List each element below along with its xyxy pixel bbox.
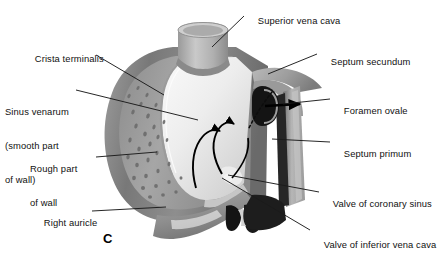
label-foramen-ovale: Foramen ovale	[333, 94, 408, 128]
label-superior-vena-cava: Superior vena cava	[247, 4, 340, 38]
panel-letter: C	[103, 231, 112, 246]
heart-body	[105, 22, 322, 239]
label-septum-secundum: Septum secundum	[320, 45, 411, 79]
label-right-auricle: Right auricle	[33, 206, 97, 240]
svc-lumen	[183, 25, 223, 36]
label-septum-primum: Septum primum	[333, 137, 411, 171]
label-valve-of-inferior-vena-cava: Valve of inferior vena cava	[313, 228, 436, 260]
label-crista-terminalis: Crista terminalis	[24, 42, 104, 76]
superior-vena-cava-vessel	[176, 22, 230, 76]
anatomical-figure: Superior vena cava Crista terminalis Sep…	[0, 0, 442, 260]
label-valve-of-coronary-sinus: Valve of coronary sinus	[322, 187, 432, 221]
